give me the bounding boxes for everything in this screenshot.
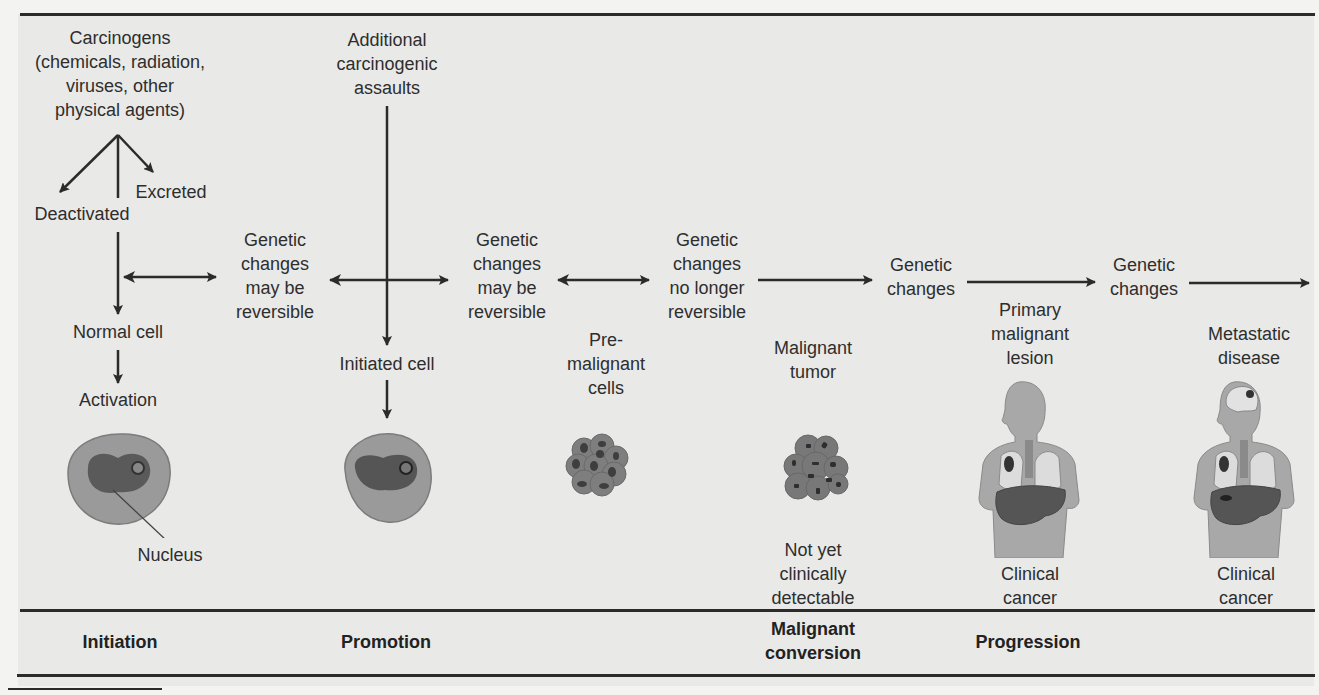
genetic-irreversible-label: Genetic changes no longer reversible [652,228,762,324]
stage-malignant-conversion: Malignant conversion [753,617,873,665]
primary-lesion-label: Primary malignant lesion [975,298,1085,370]
normal-cell-label: Normal cell [58,320,178,344]
genetic-reversible-2-label: Genetic changes may be reversible [452,228,562,324]
genetic-reversible-1-label: Genetic changes may be reversible [220,228,330,324]
malignant-tumor-label: Malignant tumor [758,336,868,384]
premalignant-cells-label: Pre- malignant cells [556,328,656,400]
normal-cell-icon [60,428,180,538]
stage-initiation: Initiation [60,630,180,654]
stage-promotion: Promotion [326,630,446,654]
deactivated-label: Deactivated [22,202,142,226]
additional-assaults-label: Additional carcinogenic assaults [307,28,467,100]
activation-label: Activation [58,388,178,412]
not-detectable-label: Not yet clinically detectable [758,538,868,610]
initiated-cell-label: Initiated cell [322,352,452,376]
excreted-label: Excreted [126,180,216,204]
genetic-changes-2-label: Genetic changes [1096,253,1192,301]
clinical-cancer-1-label: Clinical cancer [980,562,1080,610]
carcinogens-label: Carcinogens (chemicals, radiation, virus… [15,26,225,122]
clinical-cancer-2-label: Clinical cancer [1196,562,1296,610]
initiated-cell-icon [339,430,435,526]
primary-lesion-torso-icon [975,380,1085,558]
genetic-changes-1-label: Genetic changes [873,253,969,301]
metastatic-torso-icon [1190,380,1300,558]
nucleus-label: Nucleus [125,543,215,567]
malignant-tumor-icon [780,432,854,506]
metastatic-disease-label: Metastatic disease [1194,322,1304,370]
premalignant-cells-icon [564,432,630,498]
stage-progression: Progression [963,630,1093,654]
